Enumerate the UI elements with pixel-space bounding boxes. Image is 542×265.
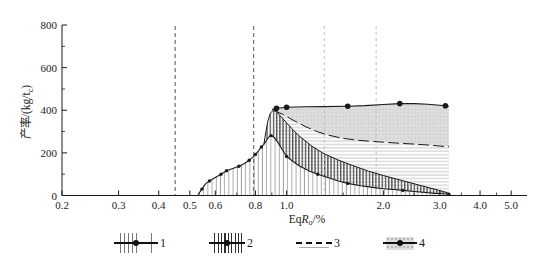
curve-A-marker [346,182,349,185]
x-tick-label: 2.0 [376,199,390,211]
x-tick-label: 0.5 [183,199,197,211]
legend-label-1: 1 [160,237,166,249]
curve-A-marker [208,179,211,182]
x-tick-label: 0.8 [249,199,263,211]
x-tick-label: 5.0 [504,199,518,211]
x-axis-label: EqRo/% [289,213,326,228]
curve-D-marker [397,101,403,107]
curve-A-marker [225,169,228,172]
curve-A-marker [254,153,257,156]
curve-D-marker [274,106,280,112]
y-tick-label: 800 [41,19,58,31]
figure: 0.20.30.40.50.60.81.02.03.04.05.00200400… [0,0,542,265]
curve-A-marker [237,165,240,168]
y-tick-label: 400 [41,104,58,116]
curve-D-marker [443,103,449,109]
chart-plot: 0.20.30.40.50.60.81.02.03.04.05.00200400… [0,0,542,232]
horizontal-lines-swatch [299,236,329,250]
vertical-hatch-thin-swatch [117,233,155,253]
vertical-hatch-dense-swatch [212,233,242,253]
curve-D-marker [345,103,351,109]
x-tick-label: 0.2 [55,199,69,211]
curve-A-marker [401,189,404,192]
curve-A-marker [316,173,319,176]
y-tick-label: 600 [41,62,58,74]
x-tick-label: 0.4 [152,199,166,211]
x-tick-label: 0.6 [208,199,222,211]
curve-D-marker [284,105,290,111]
legend-label-3: 3 [334,237,340,249]
y-axis-label: 产率/(kg/tc) [19,85,35,139]
legend-item-1: 1 [117,233,166,253]
x-tick-label: 1.0 [280,199,294,211]
x-tick-label: 0.3 [112,199,126,211]
y-tick-label: 200 [41,147,58,159]
y-tick-label: 0 [52,190,58,202]
legend-item-2: 2 [212,233,253,253]
legend-item-4: 4 [386,237,425,250]
x-tick-label: 4.0 [473,199,487,211]
curve-A-marker [219,173,222,176]
legend: 1 2 3 4 [0,233,542,253]
legend-label-4: 4 [419,237,425,249]
curve-A-marker [260,145,263,148]
curve-A-marker [248,159,251,162]
legend-item-3: 3 [299,236,340,250]
curve-A-marker [285,155,288,158]
legend-label-2: 2 [247,237,253,249]
x-tick-label: 3.0 [433,199,447,211]
gray-dotted-fill-swatch [386,237,414,250]
y-axis-ticks: 0200400600800 [41,19,68,202]
curve-A-marker [200,187,203,190]
curve-A-marker [269,134,272,137]
